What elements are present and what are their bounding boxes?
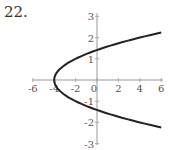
y-tick-label: -3: [84, 139, 94, 150]
x-tick-label: 2: [115, 83, 121, 94]
y-tick-label: -2: [84, 117, 94, 128]
y-tick-label: 1: [88, 54, 94, 65]
x-tick-label: -6: [28, 83, 38, 94]
x-tick-label: 0: [91, 83, 97, 94]
x-tick-label: 6: [158, 83, 164, 94]
y-tick-label: 2: [88, 33, 94, 44]
parabola-chart: -6-4-20246 321-1-2-3: [0, 0, 173, 150]
y-tick-label: 3: [88, 11, 94, 22]
x-tick-label: -2: [71, 83, 81, 94]
x-tick-label: 4: [137, 83, 143, 94]
